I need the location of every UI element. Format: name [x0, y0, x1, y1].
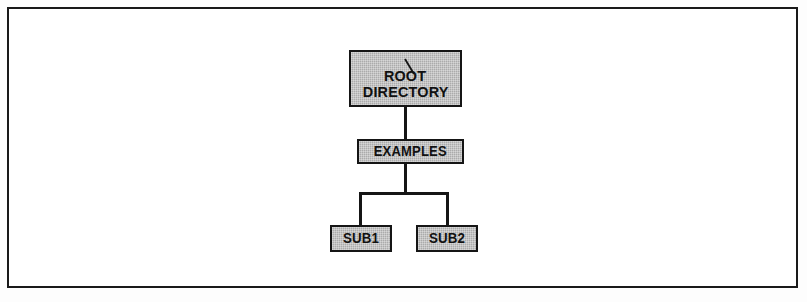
connector-bus-to-sub1 [359, 192, 362, 226]
examples-node: EXAMPLES [357, 139, 464, 164]
sub1-label: SUB1 [343, 231, 379, 245]
root-directory-label-line-1: ROOT [384, 68, 426, 83]
connector-root-to-examples [404, 106, 407, 141]
root-directory-label-line-2: DIRECTORY [363, 84, 449, 99]
connector-examples-to-branch-bus [404, 162, 407, 195]
examples-label: EXAMPLES [374, 144, 447, 158]
connector-branch-bus [359, 192, 449, 195]
sub2-node: SUB2 [416, 225, 478, 252]
root-directory-node: ROOT DIRECTORY [349, 50, 462, 107]
connector-bus-to-sub2 [446, 192, 449, 226]
scanned-figure-canvas: ROOT DIRECTORY EXAMPLES SUB1 SUB2 [0, 0, 807, 302]
sub2-label: SUB2 [429, 231, 465, 245]
directory-tree-diagram: ROOT DIRECTORY EXAMPLES SUB1 SUB2 [0, 0, 807, 302]
sub1-node: SUB1 [330, 225, 392, 252]
